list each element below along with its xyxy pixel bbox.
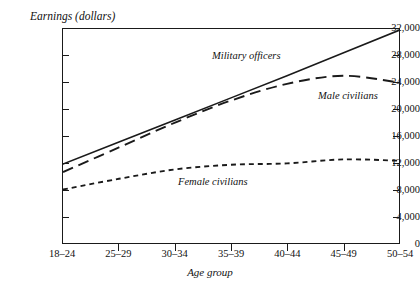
y-axis-title: Earnings (dollars) <box>30 10 115 22</box>
series-label-female-civilians: Female civilians <box>178 176 248 187</box>
x-tick-label: 50–54 <box>387 248 413 259</box>
x-tick-mark <box>344 244 345 251</box>
x-tick-mark <box>231 244 232 251</box>
cropped-caption-text <box>38 0 408 5</box>
x-tick-mark <box>118 244 119 251</box>
x-tick-mark <box>175 244 176 251</box>
x-axis-title: Age group <box>0 266 420 278</box>
series-label-military-officers: Military officers <box>212 50 281 61</box>
series-label-male-civilians: Male civilians <box>318 90 378 101</box>
chart-figure: Earnings (dollars) 04,0008,00012,00016,0… <box>0 0 420 286</box>
x-tick-mark <box>287 244 288 251</box>
x-tick-label: 18–24 <box>49 248 75 259</box>
series-lines <box>63 29 399 243</box>
